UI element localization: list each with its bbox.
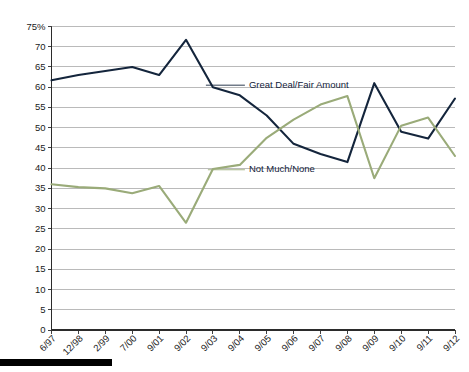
footer-black-bar — [0, 359, 112, 366]
y-tick-label: 25 — [35, 223, 46, 234]
y-tick-label: 15 — [35, 263, 46, 274]
x-tick-label: 12/98 — [60, 333, 85, 358]
chart-canvas: 051015202530354045505560657075% 6/9712/9… — [0, 0, 469, 372]
x-tick-label: 6/97 — [37, 333, 58, 354]
x-tick-label: 9/06 — [279, 333, 300, 354]
y-tick-label: 40 — [35, 162, 46, 173]
x-tick-label: 2/99 — [91, 333, 112, 354]
x-tick-label: 9/09 — [360, 333, 381, 354]
x-tick-label: 9/03 — [198, 333, 219, 354]
y-tick-label: 20 — [35, 243, 46, 254]
y-tick-label: 75% — [26, 21, 46, 32]
y-tick-label: 0 — [40, 324, 45, 335]
y-tick-label: 35 — [35, 182, 46, 193]
x-tick-label: 9/07 — [306, 333, 327, 354]
series-line-great-deal-fair-amount — [52, 40, 456, 162]
annotation-label-great-deal: Great Deal/Fair Amount — [249, 79, 349, 90]
y-tick-label: 50 — [35, 122, 46, 133]
y-tick-label: 65 — [35, 61, 46, 72]
y-tick-label: 70 — [35, 41, 46, 52]
series-line-not-much-none — [52, 96, 456, 223]
x-tick-label: 9/08 — [333, 333, 354, 354]
x-tick-label: 9/12 — [441, 333, 462, 354]
x-tick-label: 9/05 — [252, 333, 273, 354]
x-tick-label: 9/04 — [225, 333, 246, 354]
x-tick-label: 9/11 — [414, 333, 434, 353]
annotation-label-not-much: Not Much/None — [249, 163, 315, 174]
x-tick-label: 9/01 — [145, 333, 166, 354]
x-tick-label: 7/00 — [118, 333, 139, 354]
y-tick-label: 60 — [35, 81, 46, 92]
y-tick-label: 55 — [35, 101, 46, 112]
x-tick-label: 9/02 — [172, 333, 193, 354]
y-tick-label: 30 — [35, 203, 46, 214]
y-tick-label: 10 — [35, 284, 46, 295]
x-axis-labels: 6/9712/982/997/009/019/029/039/049/059/0… — [37, 333, 461, 358]
y-tick-label: 45 — [35, 142, 46, 153]
line-chart: 051015202530354045505560657075% 6/9712/9… — [0, 0, 469, 372]
x-axis-ticks — [52, 330, 456, 334]
y-axis-labels: 051015202530354045505560657075% — [26, 21, 46, 336]
x-tick-label: 9/10 — [387, 333, 408, 354]
y-tick-label: 5 — [40, 304, 45, 315]
